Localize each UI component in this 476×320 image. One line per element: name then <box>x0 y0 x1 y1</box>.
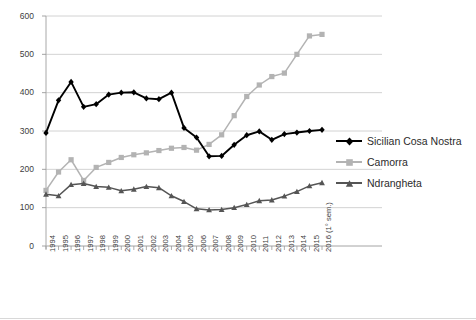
x-axis-tick-label: 2005 <box>187 235 195 252</box>
legend-label: Ndrangheta <box>362 177 422 189</box>
x-axis-tick-label: 1997 <box>87 235 95 252</box>
x-axis-tick-label: 2014 <box>300 235 308 252</box>
legend-item-ndrangheta: Ndrangheta <box>336 172 476 193</box>
figure-bottom-rule <box>0 318 476 319</box>
legend-label: Sicilian Cosa Nostra <box>362 135 462 147</box>
x-axis-tick-label: 2013 <box>288 235 296 252</box>
x-axis-tick-label: 1995 <box>62 235 70 252</box>
legend-item-sicilian-cosa-nostra: Sicilian Cosa Nostra <box>336 130 476 151</box>
x-axis-tick-label: 1996 <box>74 235 82 252</box>
x-axis-tick-label: 2009 <box>237 235 245 252</box>
x-axis-tick-label: 2002 <box>150 235 158 252</box>
x-axis-tick-label: 2000 <box>124 235 132 252</box>
x-axis-tick-label: 2006 <box>200 235 208 252</box>
x-axis-tick-label: 1999 <box>112 235 120 252</box>
x-axis-tick-label: 2010 <box>250 235 258 252</box>
x-axis-tick-label: 2012 <box>275 235 283 252</box>
x-axis-tick-label: 2015 <box>313 235 321 252</box>
x-axis-tick-label: 2001 <box>137 235 145 252</box>
legend-item-camorra: Camorra <box>336 151 476 172</box>
chart-figure: 0100200300400500600 19941995199619971998… <box>0 0 476 320</box>
x-axis-tick-label: 1994 <box>49 235 57 252</box>
legend-marker-triangle-icon <box>336 177 362 189</box>
legend-label: Camorra <box>362 156 408 168</box>
x-axis-tick-label: 2003 <box>162 235 170 252</box>
legend-marker-diamond-icon <box>336 135 362 147</box>
legend-marker-square-icon <box>336 156 362 168</box>
x-axis-tick-label: 2008 <box>225 235 233 252</box>
x-axis-tick-label: 2007 <box>212 235 220 252</box>
x-axis-tick-label: 2016 (1° sem.) <box>325 202 333 252</box>
x-axis-tick-label: 2011 <box>262 236 270 252</box>
chart-legend: Sicilian Cosa Nostra Camorra Ndrangheta <box>336 130 476 193</box>
x-axis-tick-label: 2004 <box>175 235 183 252</box>
x-axis-tick-label: 1998 <box>99 235 107 252</box>
